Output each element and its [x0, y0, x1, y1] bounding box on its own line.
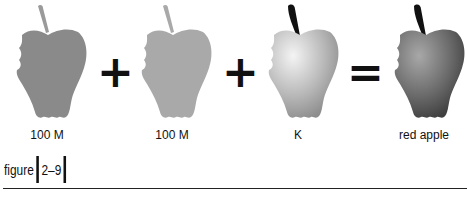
- horizontal-rule: [3, 188, 467, 189]
- label-yellow: 100 M: [122, 128, 222, 142]
- equals-operator: =: [347, 50, 384, 94]
- apple-red-result-icon: [386, 2, 466, 122]
- apple-100m-magenta-icon: [8, 2, 88, 122]
- apple-k-black-icon: [260, 2, 340, 122]
- plus-operator: +: [222, 50, 259, 94]
- figure-caption: figure 2–9: [4, 156, 69, 183]
- label-magenta: 100 M: [0, 128, 97, 142]
- plus-operator: +: [97, 50, 134, 94]
- apple-100m-yellow-icon: [133, 2, 213, 122]
- caption-divider: [64, 156, 67, 183]
- caption-divider: [36, 156, 39, 183]
- label-result: red apple: [374, 128, 467, 142]
- figure-number: 2–9: [41, 162, 61, 178]
- label-black: K: [248, 128, 348, 142]
- figure-prefix: figure: [4, 162, 34, 178]
